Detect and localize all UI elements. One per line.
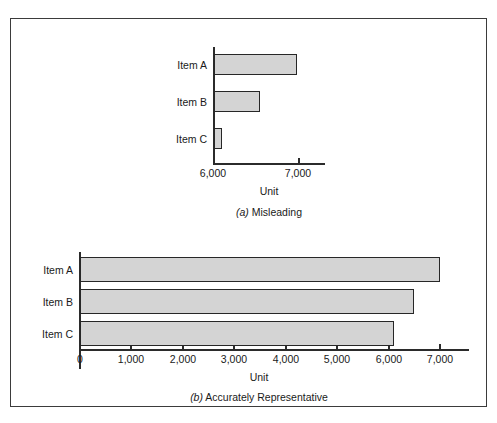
cat-label-b-item-c: Item C xyxy=(0,329,73,340)
chart-misleading: Item A Item B Item C 6,000 7,000 Unit (a… xyxy=(11,19,488,214)
bar-b-item-b xyxy=(80,289,414,314)
caption-b: (b) Accurately Representative xyxy=(109,392,409,403)
figure-frame: Item A Item B Item C 6,000 7,000 Unit (a… xyxy=(10,18,487,407)
bar-a-item-c xyxy=(214,128,222,149)
x-axis-title-a: Unit xyxy=(219,186,319,197)
x-tick-label-b-4: 4,000 xyxy=(261,354,311,365)
x-tick-label-b-2: 2,000 xyxy=(158,354,208,365)
bar-b-item-a xyxy=(80,257,440,282)
x-tick-label-a-1: 7,000 xyxy=(273,168,323,179)
x-tick-a-1 xyxy=(298,158,300,163)
x-tick-label-a-0: 6,000 xyxy=(188,168,238,179)
x-tick-label-b-6: 6,000 xyxy=(364,354,414,365)
bar-b-item-c xyxy=(80,321,394,346)
cat-label-b-item-a: Item A xyxy=(0,265,73,276)
x-tick-label-b-1: 1,000 xyxy=(106,354,156,365)
x-axis-title-b: Unit xyxy=(209,372,309,383)
cat-label-a-item-b: Item B xyxy=(131,97,207,108)
x-tick-b-7 xyxy=(439,344,441,349)
cat-label-a-item-c: Item C xyxy=(131,134,207,145)
bar-a-item-a xyxy=(214,54,297,75)
cat-label-a-item-a: Item A xyxy=(131,60,207,71)
bar-a-item-b xyxy=(214,91,260,112)
chart-accurate: Item A Item B Item C 0 1,000 2,000 3,000… xyxy=(11,214,488,408)
x-axis-line-a xyxy=(213,163,325,165)
x-tick-label-b-3: 3,000 xyxy=(209,354,259,365)
x-tick-a-0 xyxy=(213,158,215,163)
x-axis-line-b xyxy=(79,349,469,351)
caption-b-text: Accurately Representative xyxy=(205,391,328,403)
caption-b-label: (b) xyxy=(190,391,203,403)
x-tick-label-b-7: 7,000 xyxy=(415,354,465,365)
x-tick-label-b-5: 5,000 xyxy=(312,354,362,365)
cat-label-b-item-b: Item B xyxy=(0,297,73,308)
x-tick-label-b-0: 0 xyxy=(55,354,105,365)
